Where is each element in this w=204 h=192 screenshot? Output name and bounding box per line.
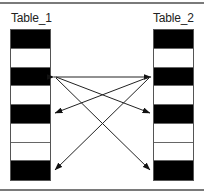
frame-bottom-border bbox=[0, 189, 204, 191]
arrow-t1r3-t2r8 bbox=[56, 78, 150, 170]
arrow-t2r3-t1r8 bbox=[55, 78, 149, 170]
connection-arrows bbox=[0, 0, 204, 192]
